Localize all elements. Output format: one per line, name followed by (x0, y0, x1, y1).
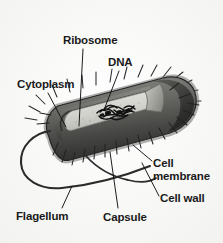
figure-canvas: Ribosome DNA Cytoplasm Cell membrane Cel… (0, 0, 223, 243)
label-cytoplasm: Cytoplasm (17, 78, 74, 91)
label-flagellum: Flagellum (16, 210, 68, 223)
label-cell-wall: Cell wall (160, 192, 205, 205)
label-ribosome: Ribosome (63, 34, 117, 47)
label-cell-membrane: Cell membrane (153, 157, 210, 182)
label-capsule: Capsule (103, 211, 147, 224)
label-dna: DNA (108, 56, 132, 69)
